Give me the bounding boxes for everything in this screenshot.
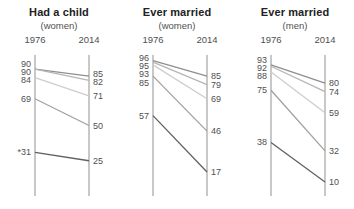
chart-had-a-child-women: Had a child (women) 1976 2014 9085908284… (0, 0, 118, 209)
slope-line-0 (271, 65, 325, 83)
right-value-label: 74 (329, 87, 339, 97)
slope-plot: 9085908284716950*3125 (0, 0, 118, 209)
left-value-label: 38 (257, 137, 267, 147)
slope-line-3 (271, 90, 325, 151)
slope-plot: 93809274885975323810 (236, 0, 354, 209)
right-value-label: 32 (329, 146, 339, 156)
slope-line-3 (35, 99, 89, 126)
chart-ever-married-women: Ever married (women) 1976 2014 968595799… (118, 0, 236, 209)
slope-line-1 (271, 66, 325, 91)
slope-line-4 (271, 142, 325, 181)
chart-ever-married-men: Ever married (men) 1976 2014 93809274885… (236, 0, 354, 209)
slope-line-2 (35, 78, 89, 96)
right-value-label: 59 (329, 108, 339, 118)
left-value-label: *31 (17, 147, 31, 157)
left-value-label: 88 (257, 71, 267, 81)
slope-line-4 (35, 152, 89, 160)
right-value-label: 71 (93, 91, 103, 101)
right-value-label: 79 (211, 80, 221, 90)
slope-line-4 (153, 116, 207, 172)
right-value-label: 69 (211, 94, 221, 104)
left-value-label: 57 (139, 111, 149, 121)
slope-line-3 (153, 76, 207, 131)
right-value-label: 46 (211, 126, 221, 136)
right-value-label: 25 (93, 156, 103, 166)
slope-chart-panel: Had a child (women) 1976 2014 9085908284… (0, 0, 354, 209)
right-value-label: 17 (211, 167, 221, 177)
slope-line-2 (271, 72, 325, 113)
slope-plot: 96859579936985465717 (118, 0, 236, 209)
left-value-label: 84 (21, 75, 31, 85)
right-value-label: 50 (93, 121, 103, 131)
right-value-label: 82 (93, 77, 103, 87)
left-value-label: 75 (257, 85, 267, 95)
right-value-label: 10 (329, 177, 339, 187)
left-value-label: 85 (139, 78, 149, 88)
left-value-label: 69 (21, 94, 31, 104)
